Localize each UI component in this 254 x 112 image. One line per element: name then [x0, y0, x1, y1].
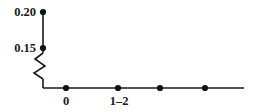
data-point-x-3: [157, 85, 163, 91]
data-point-y-020: [40, 9, 46, 15]
y-axis-tick-label-020: 0.20: [4, 6, 36, 19]
chart-figure: 0.20 0.15 0 1–2: [0, 0, 254, 112]
data-point-x-2: [115, 85, 121, 91]
data-point-x-4: [202, 85, 208, 91]
axis-break-zigzag: [34, 53, 45, 79]
data-point-x-1: [63, 85, 69, 91]
y-axis-tick-label-015: 0.15: [4, 42, 36, 55]
x-axis-tick-label-1-2: 1–2: [99, 95, 139, 108]
data-point-y-015: [40, 45, 46, 51]
x-axis-tick-label-0: 0: [55, 95, 77, 108]
